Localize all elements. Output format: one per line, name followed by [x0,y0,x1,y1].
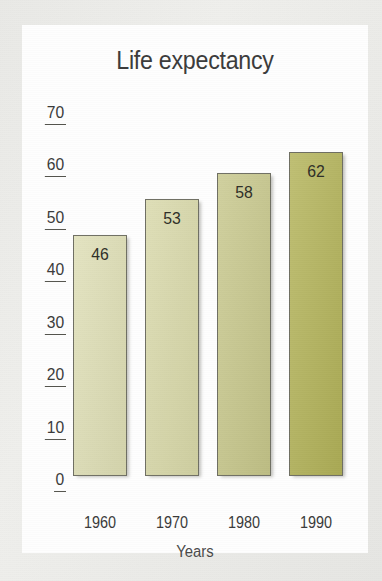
y-axis-tick-0: 0 [26,470,66,492]
bar-1990[interactable]: 62 [289,152,343,476]
page-background: Life expectancy 70 60 50 40 30 20 10 [0,0,382,581]
bar-value-label: 62 [292,162,340,182]
y-axis-tick-label: 10 [45,418,66,440]
y-axis-tick-label: 0 [54,470,66,492]
y-axis-tick-label: 60 [45,155,66,177]
x-axis-tick-1960: 1960 [76,514,125,532]
plot-area: 70 60 50 40 30 20 10 0 [22,25,368,553]
bar-value-label: 53 [148,209,196,229]
bar-value-label: 58 [220,183,268,203]
bar-1970[interactable]: 53 [145,199,199,476]
y-axis-tick-70: 70 [26,103,66,125]
y-axis-tick-50: 50 [26,208,66,230]
y-axis-tick-10: 10 [26,418,66,440]
y-axis-tick-40: 40 [26,260,66,282]
y-axis-tick-label: 50 [45,208,66,230]
chart-card: Life expectancy 70 60 50 40 30 20 10 [22,25,368,553]
x-axis-tick-1970: 1970 [148,514,197,532]
y-axis-tick-label: 40 [45,260,66,282]
bar-value-label: 46 [76,245,124,265]
y-axis-tick-30: 30 [26,313,66,335]
bar-1980[interactable]: 58 [217,173,271,476]
y-axis-tick-label: 20 [45,365,66,387]
y-axis-tick-label: 30 [45,313,66,335]
x-axis-tick-1980: 1980 [220,514,269,532]
bar-1960[interactable]: 46 [73,235,127,476]
y-axis-tick-20: 20 [26,365,66,387]
x-axis-tick-1990: 1990 [292,514,341,532]
y-axis-tick-label: 70 [45,103,66,125]
x-axis-title: Years [34,543,356,561]
y-axis-tick-60: 60 [26,155,66,177]
